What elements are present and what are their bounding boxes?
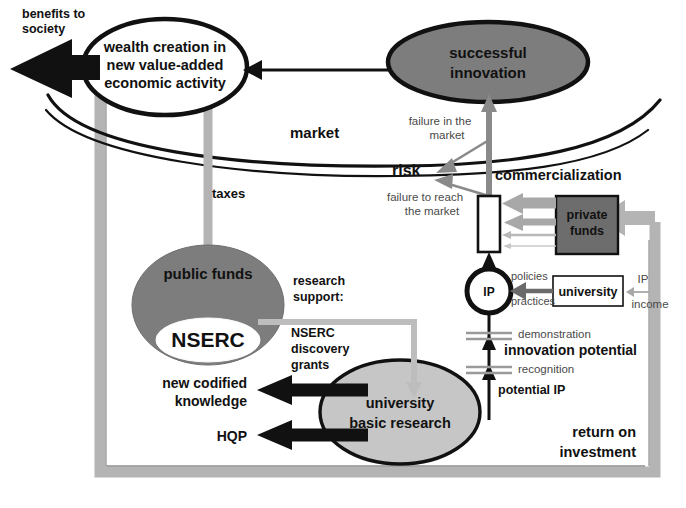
commercialization-gate: [478, 196, 500, 252]
wealth-creation-node: wealth creation in new value-added econo…: [83, 19, 247, 115]
public-funds-label: public funds: [163, 265, 252, 282]
successful-innovation-line-1: successful: [449, 44, 527, 61]
potential-ip-label: potential IP: [498, 383, 565, 397]
diagram-canvas: public funds NSERC wealth creation in ne…: [0, 0, 686, 508]
successful-innovation-node: successful innovation: [388, 22, 588, 102]
university-box-node: university: [553, 276, 623, 306]
nserc-grants-line-1: NSERC: [291, 326, 335, 340]
risk-label: risk: [392, 162, 421, 179]
ip-circle-node: IP: [467, 269, 511, 313]
research-support-line-1: research: [293, 274, 345, 288]
nserc-grants-line-2: discovery: [291, 342, 349, 356]
private-funds-line-2: funds: [570, 224, 604, 238]
new-codified-line-1: new codified: [162, 375, 247, 391]
demonstration-label: demonstration: [518, 328, 591, 340]
return-on-investment-line-1: return on: [572, 424, 636, 440]
recognition-label: recognition: [518, 363, 574, 375]
private-funds-node: private funds: [556, 196, 618, 254]
ip-income-arrow: [626, 287, 649, 297]
benefits-line-1: benefits to: [22, 7, 86, 21]
public-funds-node: public funds NSERC: [132, 245, 284, 365]
research-support-line-2: support:: [293, 290, 344, 304]
policies-label: policies: [511, 270, 548, 282]
university-basic-research-node: university basic research: [320, 360, 480, 464]
commercialization-label: commercialization: [495, 167, 622, 183]
private-funds-line-1: private: [567, 208, 608, 222]
failure-in-market-line-2: market: [429, 129, 465, 141]
innovation-potential-label: innovation potential: [504, 342, 637, 358]
innovation-flow-diagram: public funds NSERC wealth creation in ne…: [0, 0, 686, 508]
nserc-grants-line-3: grants: [291, 358, 329, 372]
ubr-line-1: university: [366, 395, 435, 411]
ip-circle-label: IP: [483, 285, 494, 299]
private-funds-to-gate-arrows: [502, 193, 556, 249]
ip-income-line-2: income: [631, 298, 668, 310]
university-box-label: university: [558, 285, 617, 299]
benefits-line-2: society: [22, 22, 65, 36]
failure-to-reach-line-2: the market: [405, 205, 460, 217]
ip-income-line-1: IP: [638, 273, 649, 285]
failure-to-reach-line-1: failure to reach: [387, 191, 463, 203]
innovation-to-wealth-arrow: [243, 60, 388, 80]
failure-in-market-line-1: failure in the: [409, 115, 472, 127]
nserc-label: NSERC: [171, 328, 245, 351]
risk-arrows: [434, 140, 489, 196]
wealth-line-1: wealth creation in: [103, 39, 226, 55]
return-on-investment-line-2: investment: [559, 444, 636, 460]
market-label: market: [290, 124, 339, 141]
wealth-line-2: new value-added: [107, 57, 224, 73]
wealth-line-3: economic activity: [104, 75, 226, 91]
hqp-label: HQP: [217, 428, 247, 444]
taxes-label: taxes: [212, 186, 245, 201]
successful-innovation-line-2: innovation: [450, 64, 526, 81]
practices-label: practices: [511, 295, 556, 307]
new-codified-line-2: knowledge: [175, 393, 248, 409]
